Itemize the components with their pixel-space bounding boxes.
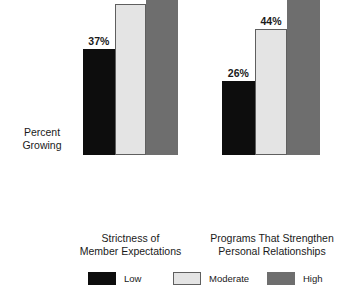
legend-label-high: High [303, 273, 323, 284]
bar-chart-figure: Percent Growing 37% 53% 64% [0, 0, 355, 300]
bar-wrapper-moderate: 44% [255, 0, 288, 155]
category-label-line-2: Personal Relationships [196, 245, 348, 258]
legend-swatch-moderate-icon [173, 272, 201, 285]
bar-low [222, 81, 255, 155]
bar-wrapper-low: 26% [222, 0, 255, 155]
plot-area: 37% 53% 64% 26% [0, 0, 355, 232]
category-label-line-1: Strictness of [58, 232, 203, 245]
bar-wrapper-moderate: 53% [115, 0, 147, 155]
bar-group-strictness: 37% 53% 64% [83, 0, 178, 155]
bar-group-bars: 26% 44% 56% [222, 0, 320, 155]
legend-item-high: High [267, 271, 323, 286]
category-label-line-2: Member Expectations [58, 245, 203, 258]
chart-legend: Low Moderate High [0, 271, 355, 289]
legend-item-low: Low [88, 271, 141, 286]
bar-wrapper-low: 37% [83, 0, 115, 155]
legend-swatch-low-icon [88, 272, 116, 285]
bar-moderate [115, 4, 147, 155]
category-label-strictness: Strictness of Member Expectations [58, 232, 203, 258]
legend-swatch-high-icon [267, 272, 295, 285]
legend-item-moderate: Moderate [173, 271, 249, 286]
bar-wrapper-high: 56% [287, 0, 320, 155]
bar-value-label: 37% [88, 35, 109, 47]
bar-value-label: 53% [120, 0, 141, 2]
category-label-programs: Programs That Strengthen Personal Relati… [196, 232, 348, 258]
legend-label-moderate: Moderate [209, 273, 249, 284]
bar-high [287, 0, 320, 155]
bar-group-programs: 26% 44% 56% [222, 0, 320, 155]
bar-group-bars: 37% 53% 64% [83, 0, 178, 155]
bar-low [83, 49, 115, 155]
legend-label-low: Low [124, 273, 141, 284]
bar-value-label: 26% [228, 67, 249, 79]
bar-wrapper-high: 64% [146, 0, 178, 155]
category-label-line-1: Programs That Strengthen [196, 232, 348, 245]
bar-moderate [255, 29, 288, 155]
bar-high [146, 0, 178, 155]
bar-value-label: 44% [260, 15, 281, 27]
